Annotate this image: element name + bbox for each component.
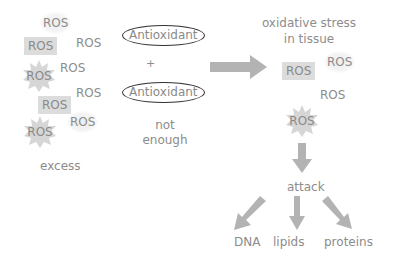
ros-halo: ROS bbox=[40, 12, 71, 34]
antioxidant-ellipse-2: Antioxidant bbox=[122, 82, 205, 103]
ros-label: ROS bbox=[60, 61, 85, 75]
branch-arrows bbox=[232, 196, 362, 234]
target-lipids: lipids bbox=[273, 236, 305, 248]
oxidative-stress-title: oxidative stress bbox=[256, 17, 362, 29]
ros-label: ROS bbox=[76, 86, 101, 100]
enough-caption: enough bbox=[140, 134, 190, 146]
plus-sign: + bbox=[146, 58, 155, 69]
ros-halo: ROS bbox=[324, 51, 355, 73]
ros-star: ROS bbox=[285, 104, 319, 138]
ros-halo: ROS bbox=[67, 111, 98, 133]
ros-label: ROS bbox=[289, 115, 314, 127]
down-right-arrow-icon bbox=[322, 196, 352, 229]
in-tissue-title: in tissue bbox=[256, 33, 362, 45]
not-caption: not bbox=[150, 119, 180, 131]
ros-box: ROS bbox=[38, 96, 71, 114]
excess-caption: excess bbox=[40, 160, 81, 172]
down-left-arrow-icon bbox=[234, 196, 266, 230]
ros-star: ROS bbox=[23, 115, 57, 149]
ros-label: ROS bbox=[26, 70, 51, 82]
target-dna: DNA bbox=[234, 236, 260, 248]
antioxidant-ellipse-1: Antioxidant bbox=[122, 25, 205, 46]
target-proteins: proteins bbox=[324, 236, 373, 248]
attack-label: attack bbox=[287, 181, 325, 193]
ros-box: ROS bbox=[282, 62, 315, 80]
ros-star: ROS bbox=[22, 59, 56, 93]
down-arrow-icon bbox=[289, 196, 305, 230]
ros-label: ROS bbox=[320, 88, 345, 102]
ros-label: ROS bbox=[76, 36, 101, 50]
right-arrow-icon bbox=[210, 54, 268, 80]
ros-label: ROS bbox=[27, 126, 52, 138]
ros-box: ROS bbox=[24, 37, 57, 55]
down-arrow-icon bbox=[292, 143, 312, 173]
